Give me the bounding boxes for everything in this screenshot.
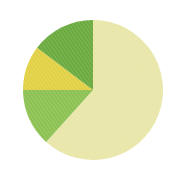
pie-chart-container xyxy=(0,0,184,173)
pie-chart xyxy=(0,0,184,173)
pie-slices-group xyxy=(23,20,163,160)
